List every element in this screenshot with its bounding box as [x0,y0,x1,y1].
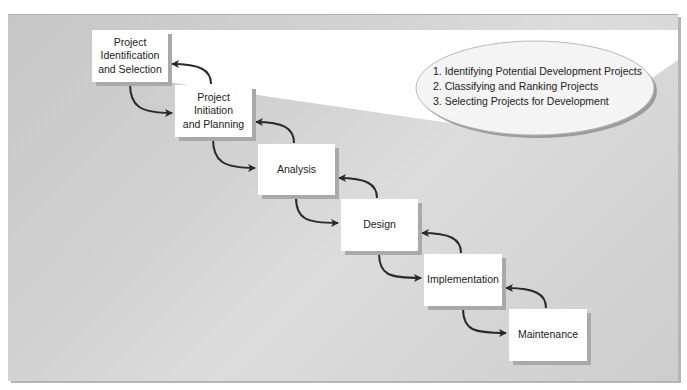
forward-arrow-2 [213,139,255,168]
callout-item: 1. Identifying Potential Development Pro… [433,64,642,79]
phase-implementation: Implementation [424,254,502,306]
back-arrow-3 [339,178,377,198]
phase-analysis: Analysis [258,144,335,195]
phase-project-identification: Project Identification and Selection [92,30,168,82]
callout-item: 3. Selecting Projects for Development [433,94,642,109]
forward-arrow-4 [379,253,421,278]
phase-design: Design [341,199,418,251]
forward-arrow-5 [463,308,506,333]
callout-item: 2. Classifying and Ranking Projects [433,79,642,94]
back-arrow-5 [506,288,546,308]
forward-arrow-3 [296,197,338,223]
phase-project-initiation: Project Initiation and Planning [175,85,252,137]
back-arrow-2 [256,122,294,143]
forward-arrow-1 [130,84,172,113]
phase-maintenance: Maintenance [509,309,587,361]
callout-list: 1. Identifying Potential Development Pro… [433,64,642,109]
back-arrow-4 [422,233,461,253]
